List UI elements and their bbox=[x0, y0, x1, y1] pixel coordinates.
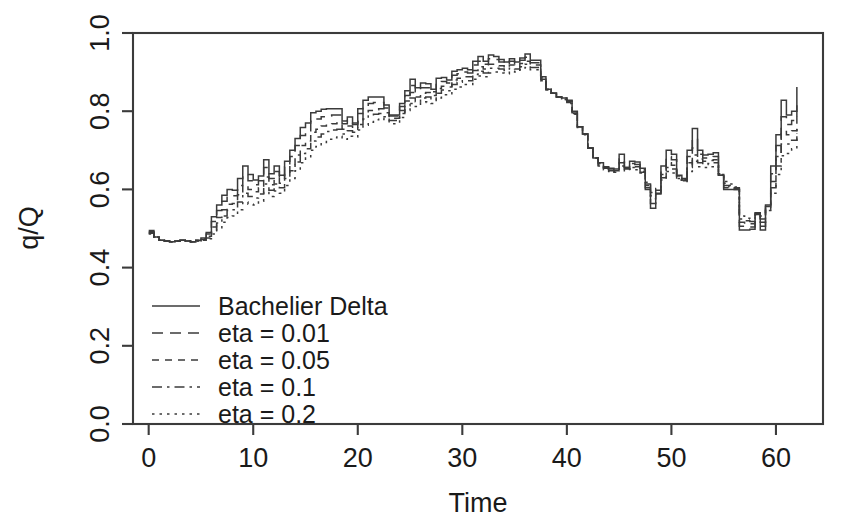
series-line-4 bbox=[149, 67, 797, 241]
x-tick-label-6: 60 bbox=[761, 443, 791, 473]
series-line-2 bbox=[149, 61, 797, 242]
x-tick-label-5: 50 bbox=[656, 443, 686, 473]
chart-figure: 0102030405060 0.00.20.40.60.81.0 Time q/… bbox=[0, 0, 868, 532]
x-tick-label-4: 40 bbox=[552, 443, 582, 473]
y-tick-label-4: 0.8 bbox=[85, 92, 115, 130]
x-tick-label-2: 20 bbox=[343, 443, 373, 473]
y-tick-label-2: 0.4 bbox=[85, 249, 115, 287]
legend-label-1: eta = 0.01 bbox=[218, 319, 330, 347]
data-series-group bbox=[149, 54, 797, 242]
x-tick-label-3: 30 bbox=[447, 443, 477, 473]
legend-label-2: eta = 0.05 bbox=[218, 346, 330, 374]
y-tick-label-0: 0.0 bbox=[85, 405, 115, 443]
legend-label-3: eta = 0.1 bbox=[218, 373, 316, 401]
x-tick-label-1: 10 bbox=[238, 443, 268, 473]
y-axis-title: q/Q bbox=[14, 206, 44, 250]
x-axis-title: Time bbox=[449, 488, 508, 518]
x-axis-tick-labels: 0102030405060 bbox=[141, 443, 791, 473]
y-tick-label-5: 1.0 bbox=[85, 14, 115, 52]
y-axis-ticks bbox=[122, 33, 133, 424]
series-line-0 bbox=[149, 54, 797, 242]
legend-label-0: Bachelier Delta bbox=[218, 292, 388, 320]
series-line-3 bbox=[149, 64, 797, 242]
legend-label-4: eta = 0.2 bbox=[218, 400, 316, 428]
chart-legend: Bachelier Deltaeta = 0.01eta = 0.05eta =… bbox=[152, 292, 388, 428]
y-tick-label-3: 0.6 bbox=[85, 171, 115, 209]
line-chart-canvas: 0102030405060 0.00.20.40.60.81.0 Time q/… bbox=[0, 0, 868, 532]
x-tick-label-0: 0 bbox=[141, 443, 156, 473]
y-tick-label-1: 0.2 bbox=[85, 327, 115, 365]
y-axis-tick-labels: 0.00.20.40.60.81.0 bbox=[85, 14, 115, 443]
